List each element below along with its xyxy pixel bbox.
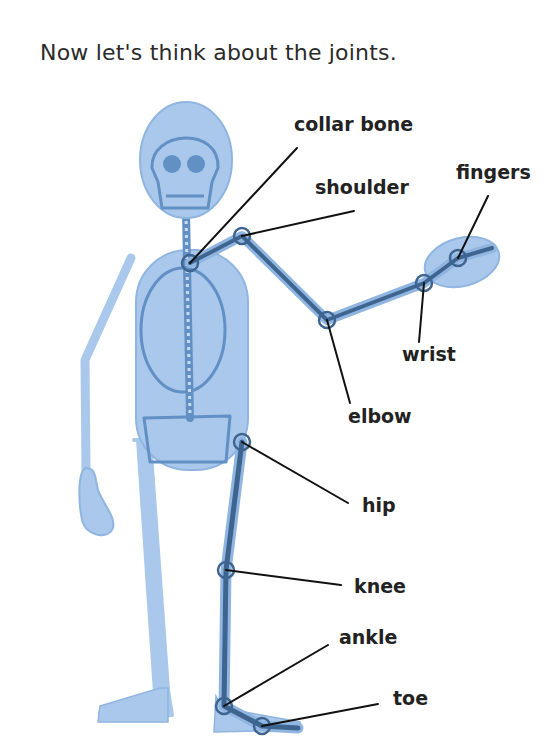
label-wrist: wrist xyxy=(402,343,456,365)
label-hip: hip xyxy=(362,494,396,516)
label-fingers: fingers xyxy=(456,161,531,183)
left-arm xyxy=(79,258,131,535)
head xyxy=(140,102,232,218)
label-shoulder: shoulder xyxy=(315,176,409,198)
label-collar-bone: collar bone xyxy=(294,113,413,135)
skeleton-illustration xyxy=(0,0,556,741)
toe-pointer xyxy=(262,704,378,726)
hip-pointer xyxy=(242,442,348,503)
ankle-pointer xyxy=(224,645,328,706)
torso xyxy=(136,212,248,470)
label-toe: toe xyxy=(393,687,428,709)
left-leg xyxy=(98,440,172,722)
shoulder-pointer xyxy=(242,211,354,236)
knee-pointer xyxy=(226,570,341,585)
label-ankle: ankle xyxy=(339,626,397,648)
label-knee: knee xyxy=(354,575,406,597)
label-elbow: elbow xyxy=(348,405,412,427)
elbow-pointer xyxy=(327,320,350,403)
